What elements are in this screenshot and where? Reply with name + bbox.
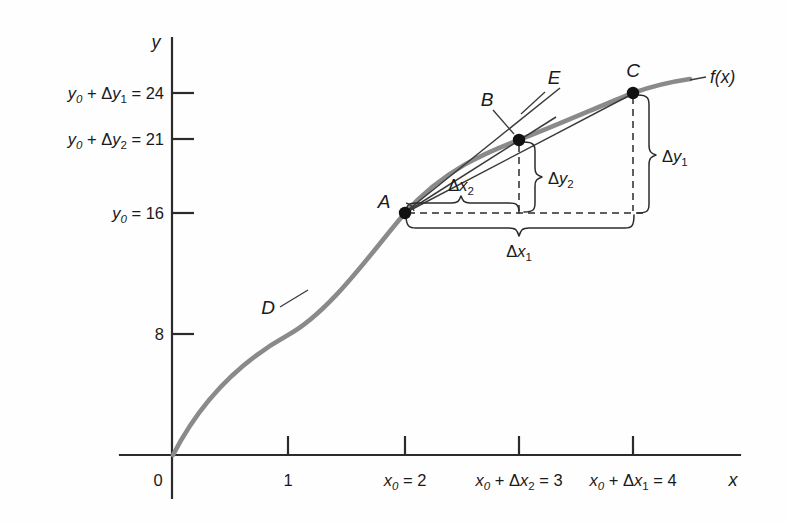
x-tick-label-1: 1: [283, 471, 292, 489]
delta-x1-label: Δx1: [506, 242, 532, 263]
y-tick-label-16: y0 = 16: [111, 204, 164, 225]
y-tick-label-24: y0 + Δy1 = 24: [67, 84, 164, 105]
point-label-D: D: [261, 297, 275, 318]
point-dot-C: [627, 87, 639, 99]
point-dot-B: [513, 134, 525, 146]
point-label-A: A: [377, 191, 391, 212]
brace-delta-x1: [406, 215, 634, 236]
brace-delta-y2: [524, 142, 542, 212]
origin-label: 0: [153, 471, 162, 489]
point-label-C: C: [626, 60, 640, 81]
brace-delta-y1: [638, 95, 656, 213]
y-tick-label-21: y0 + Δy2 = 21: [67, 130, 164, 151]
x-tick-label-2: x0 = 2: [383, 471, 427, 492]
leader-line-D: [280, 290, 308, 307]
function-curve: [173, 79, 690, 455]
leader-line-fx: [690, 77, 706, 80]
secant-line-AB: [403, 117, 556, 214]
x-tick-label-4: x0 + Δx1 = 4: [588, 471, 676, 492]
function-label: f(x): [710, 67, 735, 87]
diagram-svg: y x 0 y0 + Δy1 = 24 y0 + Δy2 = 21 y0 = 1…: [0, 0, 788, 523]
delta-y1-label: Δy1: [662, 147, 688, 168]
point-label-E: E: [548, 67, 561, 88]
point-dot-A: [399, 207, 411, 219]
point-label-B: B: [481, 89, 494, 110]
delta-y2-label: Δy2: [548, 169, 574, 190]
figure-canvas: y x 0 y0 + Δy1 = 24 y0 + Δy2 = 21 y0 = 1…: [0, 0, 788, 523]
y-axis-label: y: [150, 32, 162, 52]
leader-line-B: [493, 110, 514, 134]
x-axis-label: x: [728, 470, 739, 490]
x-tick-label-3: x0 + Δx2 = 3: [474, 471, 562, 492]
y-tick-label-8: 8: [155, 325, 164, 343]
